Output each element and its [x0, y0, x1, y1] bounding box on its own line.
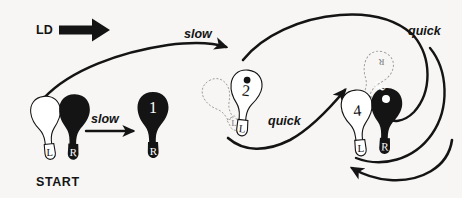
diagram-canvas: LD slow slow quick quick L R START 1 R: [0, 0, 462, 198]
step-number-1: 1: [149, 99, 157, 116]
slow-label-lower: slow: [91, 112, 120, 126]
heel-label-step-3: R: [381, 140, 390, 152]
heel-label-step-4: L: [357, 142, 364, 154]
footprint-step-diagram: LD slow slow quick quick L R START 1 R: [0, 0, 462, 198]
ld-label: LD: [36, 23, 53, 37]
step-number-4: 4: [352, 102, 361, 120]
quick-label-upper: quick: [408, 24, 442, 38]
heel-label-start-left: L: [47, 147, 53, 158]
heel-label-step-1: R: [150, 145, 158, 157]
quick-label-lower: quick: [268, 114, 302, 128]
heel-label-start-right: R: [69, 146, 77, 158]
start-label: START: [36, 175, 80, 189]
ghost-heel-label-near-step-2: L: [232, 119, 237, 128]
ghost-heel-label-near-step-3: R: [378, 57, 384, 67]
slow-label-upper: slow: [184, 27, 213, 41]
